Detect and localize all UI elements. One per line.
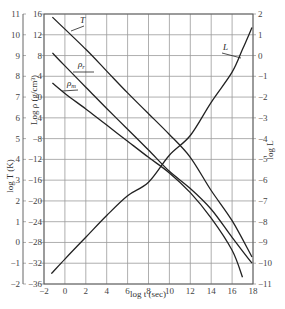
curves bbox=[51, 17, 252, 277]
curve-label-T: T bbox=[80, 15, 86, 25]
log-rho-tick-label: −36 bbox=[28, 279, 43, 289]
log-rho-tick-label: 16 bbox=[33, 9, 43, 19]
log-t-tick-label: −1 bbox=[10, 258, 20, 268]
label-leader-line bbox=[71, 26, 84, 31]
log-t-tick-label: 7 bbox=[16, 92, 21, 102]
log-t-tick-label: 2 bbox=[16, 196, 21, 206]
log-l-axis-label: log L bbox=[265, 140, 275, 159]
x-tick-label: 12 bbox=[186, 286, 195, 296]
log-t-tick-label: 5 bbox=[16, 134, 21, 144]
grid bbox=[23, 14, 256, 284]
x-tick-label: 2 bbox=[84, 286, 89, 296]
label-leader-line bbox=[62, 90, 78, 91]
log-rho-tick-label: −32 bbox=[28, 258, 42, 268]
log-t-tick-label: 1 bbox=[16, 217, 21, 227]
log-l-tick-label: 0 bbox=[258, 51, 263, 61]
log-t-tick-label: 6 bbox=[16, 113, 21, 123]
x-tick-label: 10 bbox=[165, 286, 175, 296]
log-l-tick-label: −6 bbox=[258, 175, 268, 185]
log-rho-tick-label: −24 bbox=[28, 217, 43, 227]
log-l-tick-label: −9 bbox=[258, 237, 268, 247]
log-l-tick-label: −8 bbox=[258, 217, 268, 227]
x-tick-label: 18 bbox=[249, 286, 259, 296]
log-l-tick-label: −3 bbox=[258, 113, 268, 123]
log-rho-tick-label: −20 bbox=[28, 196, 43, 206]
log-t-tick-label: 11 bbox=[11, 9, 20, 19]
log-l-tick-label: −10 bbox=[258, 258, 273, 268]
curve-label-ρr: ρr bbox=[77, 59, 85, 70]
log-rho-tick-label: 8 bbox=[38, 51, 43, 61]
log-l-tick-label: −1 bbox=[258, 71, 268, 81]
curve-label-ρm: ρm bbox=[66, 78, 76, 89]
log-t-tick-label: 10 bbox=[11, 30, 21, 40]
log-t-tick-label: −2 bbox=[10, 279, 20, 289]
curve-rho-r bbox=[52, 53, 252, 263]
x-tick-label: 4 bbox=[104, 286, 109, 296]
log-t-tick-label: 9 bbox=[16, 51, 21, 61]
log-t-axis-label: log T (K) bbox=[5, 159, 15, 193]
log-l-tick-label: −11 bbox=[258, 279, 272, 289]
x-tick-label: 14 bbox=[207, 286, 217, 296]
log-rho-axis-label: Log ρ (g/cm³) bbox=[29, 75, 39, 125]
log-rho-tick-label: 12 bbox=[33, 30, 42, 40]
log-t-tick-label: 8 bbox=[16, 71, 21, 81]
log-t-tick-label: 3 bbox=[16, 175, 21, 185]
chart: −20246810121416181612840−4−8−12−16−20−24… bbox=[0, 0, 285, 309]
log-t-tick-label: 4 bbox=[16, 154, 21, 164]
log-rho-tick-label: −8 bbox=[32, 134, 42, 144]
log-l-tick-label: 2 bbox=[258, 9, 263, 19]
log-l-tick-label: −7 bbox=[258, 196, 268, 206]
x-tick-label: 16 bbox=[228, 286, 238, 296]
log-rho-tick-label: −16 bbox=[28, 175, 43, 185]
curve-label-L: L bbox=[222, 42, 228, 52]
x-axis-label: log t (sec) bbox=[130, 289, 166, 299]
chart-svg: −20246810121416181612840−4−8−12−16−20−24… bbox=[0, 0, 285, 309]
log-l-tick-label: 1 bbox=[258, 30, 263, 40]
log-rho-tick-label: −12 bbox=[28, 154, 42, 164]
x-tick-label: 0 bbox=[63, 286, 68, 296]
log-rho-tick-label: −28 bbox=[28, 237, 43, 247]
log-t-tick-label: 0 bbox=[16, 237, 21, 247]
log-l-tick-label: −2 bbox=[258, 92, 268, 102]
